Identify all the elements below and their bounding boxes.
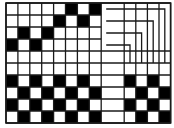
drawdown-cell (77, 75, 89, 87)
drawdown-cell (42, 87, 54, 99)
drawdown-cell (42, 111, 54, 123)
drawdown-cell (18, 87, 30, 99)
drawdown-cell (89, 111, 101, 123)
treadling-cell (124, 75, 136, 87)
threading-cell (77, 15, 89, 27)
drawdown-cell (6, 99, 18, 111)
drawdown-cell (54, 99, 66, 111)
threading-cell (6, 39, 18, 51)
drawdown-cell (89, 87, 101, 99)
drawdown-cell (54, 75, 66, 87)
treadling-cell (136, 111, 148, 123)
threading-cell (66, 3, 78, 15)
treadling-cell (147, 75, 159, 87)
threading-cell (54, 15, 66, 27)
weaving-draft-diagram (0, 0, 174, 128)
threading-cell (42, 27, 54, 39)
drawdown-cell (30, 75, 42, 87)
treadling-cell (147, 99, 159, 111)
threading-cell (30, 39, 42, 51)
treadling-cell (159, 87, 171, 99)
treadling-cell (136, 87, 148, 99)
threading-cell (18, 27, 30, 39)
tieup-connector-line (106, 45, 130, 63)
treadling-cell (124, 99, 136, 111)
threading-cell (89, 3, 101, 15)
drawdown-cell (66, 111, 78, 123)
treadling-cell (159, 111, 171, 123)
drawdown-cell (18, 111, 30, 123)
drawdown-cell (30, 99, 42, 111)
drawdown-cell (66, 87, 78, 99)
drawdown-cell (6, 75, 18, 87)
drawdown-cell (77, 99, 89, 111)
